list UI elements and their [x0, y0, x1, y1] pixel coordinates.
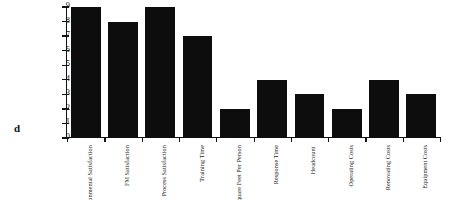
x-axis-label-text: Square FeetPer Person	[235, 145, 242, 200]
bar	[257, 80, 287, 138]
x-axis-labels: EnvironmentalSatisfactionFMSatisfactionP…	[67, 145, 440, 200]
x-axis-label-text: FMSatisfaction	[123, 145, 130, 186]
figure-panel-letter: d	[14, 122, 20, 134]
x-axis-label-line: Renovating	[384, 159, 391, 190]
x-axis-tick-mark	[328, 137, 329, 142]
bars-layer	[67, 7, 440, 138]
bar	[220, 109, 250, 138]
x-axis-tick-mark	[104, 137, 105, 142]
x-axis-label-line: Square Feet	[235, 173, 242, 200]
x-axis-label-line: Training	[198, 158, 205, 181]
x-axis-tick-mark	[365, 137, 366, 142]
bar	[332, 109, 362, 138]
bar-chart-plot-area: 0123456789 EnvironmentalSatisfactionFMSa…	[56, 2, 440, 198]
x-axis-label-line: Environmental	[86, 175, 93, 200]
x-axis-tick-mark	[254, 137, 255, 142]
bar	[369, 80, 399, 138]
x-axis-label-line: Costs	[384, 145, 391, 159]
x-axis-label-line: Costs	[421, 145, 428, 159]
x-axis-label-text: RenovatingCosts	[384, 145, 391, 190]
x-axis-label-line: Costs	[347, 145, 354, 159]
x-axis-label-line: Time	[272, 145, 279, 158]
x-axis-label-text: OperatingCosts	[347, 145, 354, 186]
bar	[295, 94, 325, 138]
x-axis-label-text: EnvironmentalSatisfaction	[86, 145, 93, 200]
bar	[145, 7, 175, 138]
x-axis-label-text: ResponseTime	[272, 145, 279, 184]
x-axis-label-line: Time	[198, 145, 205, 158]
bar	[71, 7, 101, 138]
x-axis-label-line: Satisfaction	[123, 145, 130, 175]
x-axis-label-line: Per Person	[235, 145, 242, 173]
x-axis-label-line: Satisfaction	[160, 145, 167, 175]
x-axis-tick-mark	[179, 137, 180, 142]
x-axis-label: EquipmentCosts	[394, 145, 448, 199]
x-axis-label-line: Process	[160, 175, 167, 196]
x-axis-label-text: ProcessSatisfaction	[160, 145, 167, 197]
x-axis-label-line: Satisfaction	[86, 145, 93, 175]
x-axis-label-line: FM	[123, 175, 130, 186]
x-axis-label-text: TrainingTime	[198, 145, 205, 182]
bar	[183, 36, 213, 138]
x-axis-label-text: Headcount	[309, 145, 316, 174]
bar	[406, 94, 436, 138]
x-axis-tick-mark	[67, 137, 68, 142]
x-axis-label-text: EquipmentCosts	[421, 145, 428, 189]
x-axis-label-line: Equipment	[421, 159, 428, 189]
x-axis-tick-mark	[216, 137, 217, 142]
x-axis-tick-mark	[142, 137, 143, 142]
x-axis-tick-mark	[291, 137, 292, 142]
figure-container: d 0123456789 EnvironmentalSatisfactionFM…	[0, 0, 457, 200]
x-axis-label-line: Headcount	[309, 145, 316, 174]
x-axis-tick-mark	[403, 137, 404, 142]
x-axis-label-line: Response	[272, 158, 279, 184]
x-axis-tick-mark	[440, 137, 441, 142]
x-axis-label-line: Operating	[347, 159, 354, 186]
bar	[108, 22, 138, 138]
